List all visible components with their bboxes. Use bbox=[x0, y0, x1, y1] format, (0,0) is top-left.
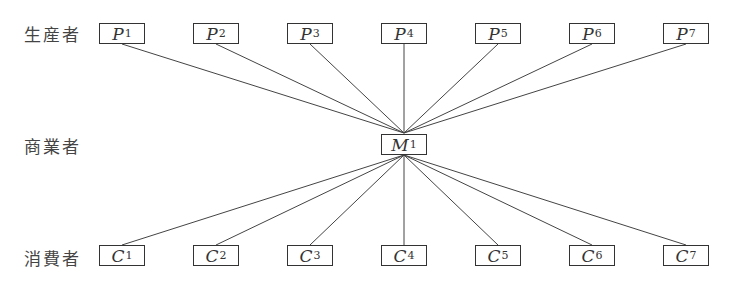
consumer-node: C2 bbox=[193, 245, 239, 266]
consumer-node: C5 bbox=[475, 245, 521, 266]
producer-node: P7 bbox=[663, 23, 709, 44]
consumer-node: C1 bbox=[99, 245, 145, 266]
merchant-node: M1 bbox=[381, 134, 427, 155]
consumer-node: C7 bbox=[663, 245, 709, 266]
producer-node: P6 bbox=[569, 23, 615, 44]
producer-node: P5 bbox=[475, 23, 521, 44]
producer-node: P3 bbox=[287, 23, 333, 44]
producer-node: P4 bbox=[381, 23, 427, 44]
consumers-label: 消費者 bbox=[24, 245, 81, 270]
merchant-label: 商業者 bbox=[24, 133, 81, 158]
producer-node: P1 bbox=[99, 23, 145, 44]
producer-node: P2 bbox=[193, 23, 239, 44]
producers-label: 生産者 bbox=[24, 21, 81, 46]
consumer-node: C3 bbox=[287, 245, 333, 266]
consumer-node: C6 bbox=[569, 245, 615, 266]
consumer-node: C4 bbox=[381, 245, 427, 266]
